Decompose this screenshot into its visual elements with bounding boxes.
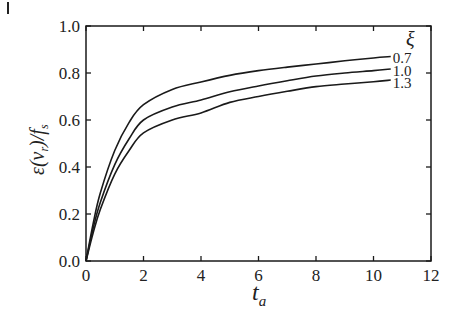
y-tick-label: 0.6 bbox=[59, 111, 80, 130]
y-axis-label: ε(vr)/fs bbox=[26, 124, 51, 175]
y-axis: 0.00.20.40.60.81.0 bbox=[59, 17, 431, 271]
y-tick-label: 0.0 bbox=[59, 252, 80, 271]
x-tick-label: 12 bbox=[423, 266, 440, 285]
y-tick-label: 0.4 bbox=[59, 158, 81, 177]
x-tick-label: 2 bbox=[139, 266, 148, 285]
series-line-1-3 bbox=[86, 80, 391, 261]
legend-title: ξ bbox=[406, 28, 415, 50]
x-axis: 024681012 bbox=[82, 26, 440, 285]
y-tick-label: 0.2 bbox=[59, 205, 80, 224]
series-line-0-7 bbox=[86, 57, 391, 261]
series-line-1-0 bbox=[86, 69, 391, 261]
y-tick-label: 1.0 bbox=[59, 17, 80, 36]
x-tick-label: 10 bbox=[365, 266, 382, 285]
line-chart: 0.00.20.40.60.81.0 024681012 ξ 0.71.01.3… bbox=[0, 0, 457, 320]
x-tick-label: 4 bbox=[197, 266, 206, 285]
x-tick-label: 8 bbox=[312, 266, 321, 285]
y-tick-label: 0.8 bbox=[59, 64, 80, 83]
plot-area bbox=[86, 26, 431, 261]
legend-entry: 1.3 bbox=[393, 75, 412, 91]
plot-frame bbox=[86, 26, 431, 261]
x-tick-label: 0 bbox=[82, 266, 91, 285]
legend: ξ 0.71.01.3 bbox=[393, 28, 415, 91]
